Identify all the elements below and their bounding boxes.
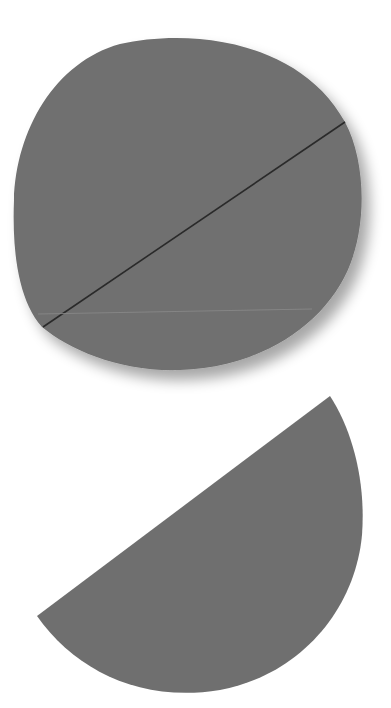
half-disc bbox=[37, 396, 363, 693]
full-disc bbox=[14, 38, 362, 370]
scene bbox=[0, 0, 391, 708]
